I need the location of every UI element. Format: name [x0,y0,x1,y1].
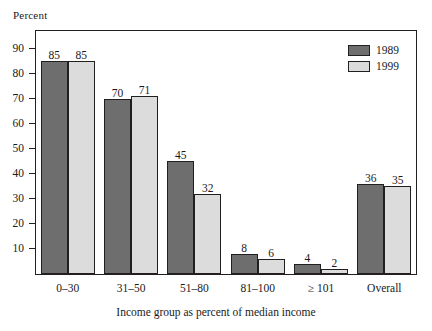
y-axis-tick-label: 80 [13,68,25,80]
bar-value-label: 85 [75,49,87,61]
legend-swatch [348,61,370,72]
bar-chart-figure: Percent 102030405060708090 8585707145328… [0,0,432,331]
bar-1989-Overall[interactable]: 36 [357,184,384,274]
bar-value-label: 35 [392,174,404,186]
bar-value-label: 71 [139,84,151,96]
y-axis-title: Percent [13,9,47,22]
y-axis-tick-label: 50 [13,143,25,155]
bar-group: 86 [226,31,289,274]
bar-1999-Overall[interactable]: 35 [384,186,411,274]
bar-pair: 42 [289,31,352,274]
y-axis-tick: 10 [29,248,36,249]
legend-item-1999[interactable]: 1999 [348,60,399,72]
y-axis-tick-label: 40 [13,168,25,180]
y-axis-tick-label: 70 [13,93,25,105]
bar-1999-51–80[interactable]: 32 [194,194,221,274]
y-axis-tick: 20 [29,223,36,224]
legend: 19891999 [348,44,399,76]
bar-group: 4532 [163,31,226,274]
bar-1999-≥ 101[interactable]: 2 [321,269,348,274]
bar-group: 42 [289,31,352,274]
y-axis-tick-label: 20 [13,218,25,230]
bar-1989-≥ 101[interactable]: 4 [294,264,321,274]
legend-label: 1989 [376,44,399,56]
bar-1989-31–50[interactable]: 70 [104,99,131,274]
bar-1989-51–80[interactable]: 45 [167,161,194,274]
bar-value-label: 2 [332,257,338,269]
x-axis-category-label: ≥ 101 [308,281,334,295]
bar-group: 7071 [99,31,162,274]
x-axis-category-label: 81–100 [240,281,275,295]
bar-pair: 7071 [99,31,162,274]
y-axis-tick: 60 [29,123,36,124]
bar-group: 8585 [36,31,99,274]
y-axis-tick-label: 90 [13,43,25,55]
x-axis-title: Income group as percent of median income [0,305,432,319]
bar-pair: 4532 [163,31,226,274]
y-axis-tick: 50 [29,148,36,149]
x-axis-tick-labels: 0–3031–5051–8081–100≥ 101Overall [36,281,416,297]
y-axis-tick-label: 10 [13,243,25,255]
bar-pair: 86 [226,31,289,274]
bar-value-label: 8 [241,242,247,254]
y-axis-tick: 90 [29,48,36,49]
bar-value-label: 6 [268,247,274,259]
bar-pair: 8585 [36,31,99,274]
x-axis-category-label: 31–50 [117,281,146,295]
y-axis-tick-label: 60 [13,118,25,130]
bar-value-label: 45 [175,149,187,161]
bar-value-label: 70 [112,87,124,99]
bar-value-label: 32 [202,182,214,194]
bar-value-label: 85 [48,49,60,61]
bar-1999-81–100[interactable]: 6 [258,259,285,274]
bar-1999-31–50[interactable]: 71 [131,96,158,274]
y-axis-tick: 40 [29,173,36,174]
y-axis-tick: 70 [29,98,36,99]
bar-1999-0–30[interactable]: 85 [68,61,95,274]
legend-item-1989[interactable]: 1989 [348,44,399,56]
legend-label: 1999 [376,60,399,72]
legend-swatch [348,45,370,56]
bar-value-label: 36 [365,172,377,184]
y-axis-tick: 80 [29,73,36,74]
y-axis-tick-label: 30 [13,193,25,205]
x-axis-category-label: 51–80 [180,281,209,295]
y-axis-tick: 30 [29,198,36,199]
bar-1989-81–100[interactable]: 8 [231,254,258,274]
bar-1989-0–30[interactable]: 85 [41,61,68,274]
bar-value-label: 4 [305,252,311,264]
x-axis-category-label: 0–30 [56,281,79,295]
x-axis-category-label: Overall [367,281,401,295]
